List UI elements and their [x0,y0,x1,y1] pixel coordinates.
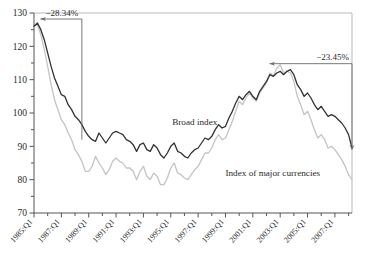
annotation-label: −23.45% [316,52,349,62]
y-tick-label: 70 [18,208,28,218]
x-tick-label: 2003:Q1 [255,217,281,244]
x-tick-label: 2005:Q1 [282,217,308,244]
y-tick-label: 90 [18,142,28,152]
y-tick-label: 130 [13,8,28,18]
y-tick-label: 110 [13,75,27,85]
x-tick-label: 1997:Q1 [173,217,199,244]
y-axis-tick-labels: 708090100110120130 [13,8,28,218]
series-label-broad-index: Broad index [172,117,218,127]
chart-canvas: 708090100110120130 1985:Q11987:Q11989:Q1… [0,0,366,270]
y-tick-label: 120 [13,42,28,52]
series-label-index-of-major-currencies: Index of major currencies [225,168,320,178]
y-tick-label: 80 [18,175,28,185]
x-tick-label: 1999:Q1 [200,217,226,244]
x-tick-label: 1995:Q1 [145,217,171,244]
y-axis-ticks [30,13,35,213]
currency-index-chart-figure: 708090100110120130 1985:Q11987:Q11989:Q1… [0,0,366,270]
y-tick-label: 100 [13,108,28,118]
annotation-label: −28.34% [45,8,78,18]
x-tick-label: 1991:Q1 [91,217,117,244]
x-axis-tick-labels: 1985:Q11987:Q11989:Q11991:Q11993:Q11995:… [9,217,336,244]
x-tick-label: 1985:Q1 [9,217,35,244]
x-tick-label: 2001:Q1 [227,217,253,244]
x-tick-label: 1989:Q1 [63,217,89,244]
x-tick-label: 2007:Q1 [310,217,336,244]
x-tick-label: 1987:Q1 [36,217,62,244]
x-tick-label: 1993:Q1 [118,217,144,244]
